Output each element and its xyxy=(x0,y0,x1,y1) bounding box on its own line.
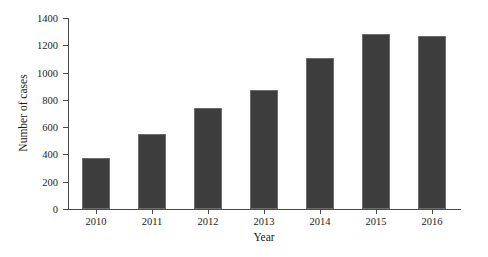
x-tick-mark xyxy=(152,210,153,214)
y-tick-label: 200 xyxy=(4,176,58,187)
x-axis-title: Year xyxy=(68,231,460,243)
x-tick-mark xyxy=(376,210,377,214)
bar xyxy=(418,36,446,209)
y-tick-label: 1000 xyxy=(4,67,58,78)
bar xyxy=(250,90,278,209)
y-tick-mark xyxy=(63,209,68,210)
y-tick-label: 800 xyxy=(4,94,58,105)
x-tick-label: 2014 xyxy=(290,216,350,227)
y-tick-label: 1400 xyxy=(4,13,58,24)
x-tick-label: 2013 xyxy=(234,216,294,227)
y-tick-label: 600 xyxy=(4,122,58,133)
bar xyxy=(362,34,390,209)
x-tick-label: 2011 xyxy=(122,216,182,227)
bar xyxy=(138,134,166,209)
x-tick-mark xyxy=(264,210,265,214)
y-tick-label: 0 xyxy=(4,204,58,215)
x-tick-label: 2016 xyxy=(402,216,462,227)
bar xyxy=(82,158,110,209)
x-tick-mark xyxy=(208,210,209,214)
x-tick-label: 2012 xyxy=(178,216,238,227)
bar-chart-figure: Number of cases Year 0200400600800100012… xyxy=(0,0,488,257)
x-tick-mark xyxy=(432,210,433,214)
y-tick-label: 400 xyxy=(4,149,58,160)
y-tick-label: 1200 xyxy=(4,40,58,51)
x-tick-mark xyxy=(96,210,97,214)
x-tick-label: 2015 xyxy=(346,216,406,227)
bar xyxy=(194,108,222,209)
bar xyxy=(306,58,334,209)
x-tick-label: 2010 xyxy=(66,216,126,227)
x-tick-mark xyxy=(320,210,321,214)
bar-series xyxy=(68,18,460,209)
